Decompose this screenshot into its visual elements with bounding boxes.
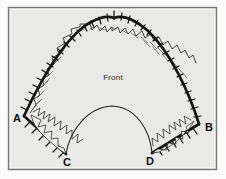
dental-arch-diagram: A B C D Front xyxy=(0,0,226,179)
label-c: C xyxy=(63,156,71,168)
label-a: A xyxy=(13,112,21,124)
label-front: Front xyxy=(103,73,123,82)
figure-container: A B C D Front xyxy=(0,0,226,179)
label-d: D xyxy=(146,155,154,167)
label-b: B xyxy=(205,121,213,133)
